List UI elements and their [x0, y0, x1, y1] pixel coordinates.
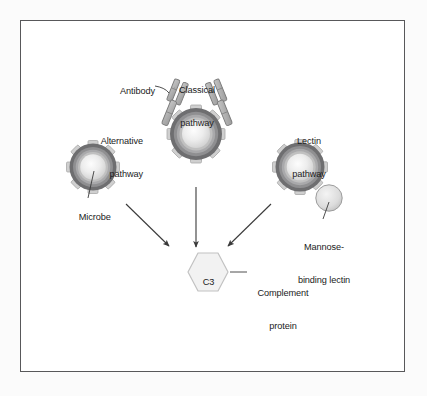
alternative-pathway-label: Alternative pathway — [51, 114, 143, 202]
microbe-label: Microbe — [64, 201, 134, 234]
complement-protein-label-line2: protein — [245, 321, 321, 332]
c3-label: C3 — [188, 266, 208, 299]
microbe-label-text: Microbe — [79, 212, 111, 222]
mannose-binding-lectin-label-line1: Mannose- — [277, 242, 371, 253]
figure-frame: Alternative pathway Antibody Classical p… — [20, 20, 405, 372]
classical-pathway-label-line1: Classical — [161, 85, 233, 96]
classical-pathway-label: Classical pathway — [161, 63, 233, 151]
complement-protein-label-line1: Complement — [245, 288, 321, 299]
complement-protein-label: Complement protein — [245, 266, 321, 354]
antibody-label-text: Antibody — [120, 86, 155, 96]
lectin-pathway-label-line2: pathway — [273, 169, 345, 180]
lectin-pathway-label: Lectin pathway — [273, 114, 345, 202]
classical-pathway-label-line2: pathway — [161, 118, 233, 129]
alternative-pathway-label-line1: Alternative — [51, 136, 143, 147]
pathway-arrows — [126, 187, 271, 247]
lectin-pathway-label-line1: Lectin — [273, 136, 345, 147]
figure-page: Alternative pathway Antibody Classical p… — [0, 0, 427, 396]
alternative-pathway-label-line2: pathway — [51, 169, 143, 180]
antibody-label: Antibody — [83, 75, 155, 108]
arrow-lectin-to-c3 — [228, 204, 271, 246]
c3-label-text: C3 — [203, 277, 215, 287]
